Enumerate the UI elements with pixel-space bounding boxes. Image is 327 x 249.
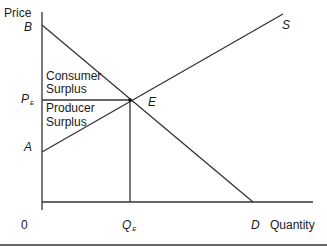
quantity-equilibrium-label: QE bbox=[122, 219, 136, 236]
price-subscript: E bbox=[30, 100, 34, 106]
origin-label: 0 bbox=[21, 219, 28, 232]
price-equilibrium-label: PE bbox=[21, 93, 34, 110]
point-b-label: B bbox=[24, 21, 32, 34]
y-axis-label: Price bbox=[4, 7, 31, 20]
point-s-label: S bbox=[282, 19, 290, 32]
equilibrium-point bbox=[128, 98, 132, 102]
point-a-label: A bbox=[24, 141, 32, 154]
point-d-label: D bbox=[251, 219, 260, 232]
producer-surplus-label-line1: Producer bbox=[46, 102, 95, 115]
producer-surplus-label-line2: Surplus bbox=[46, 116, 87, 129]
consumer-surplus-label-line2: Surplus bbox=[46, 83, 87, 96]
quantity-subscript: E bbox=[132, 226, 136, 232]
x-axis-label: Quantity bbox=[270, 219, 315, 232]
point-e-label: E bbox=[148, 96, 156, 109]
quantity-symbol: Q bbox=[122, 218, 131, 232]
price-symbol: P bbox=[21, 92, 29, 106]
